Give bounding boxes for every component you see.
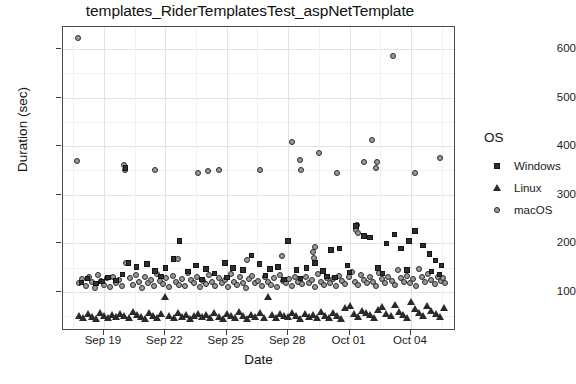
legend-item-macos[interactable]: macOS (488, 199, 576, 221)
triangle-marker-icon (488, 179, 506, 197)
data-point-windows (126, 260, 132, 266)
data-point-macos (390, 53, 396, 59)
data-point-linux (415, 309, 423, 316)
data-point-macos (244, 257, 250, 263)
data-point-windows (120, 272, 126, 278)
data-point-macos (74, 158, 80, 164)
data-point-linux (170, 314, 178, 321)
data-point-macos (346, 274, 352, 280)
legend-item-windows[interactable]: Windows (488, 155, 576, 177)
data-point-windows (105, 275, 111, 281)
data-point-macos (225, 284, 231, 290)
data-point-macos (231, 279, 237, 285)
data-point-macos (95, 272, 101, 278)
data-point-macos (289, 139, 295, 145)
gridline-x-minor (73, 27, 74, 329)
y-tick-mark (56, 97, 61, 98)
data-point-macos (200, 278, 206, 284)
x-tick-label: Sep 19 (68, 334, 138, 346)
data-point-linux (362, 309, 370, 316)
data-point-windows (158, 274, 164, 280)
data-point-macos (92, 285, 98, 291)
data-point-macos (79, 276, 85, 282)
data-point-linux (206, 314, 214, 321)
gridline-y-major (63, 195, 454, 196)
data-point-macos (364, 280, 370, 286)
data-point-macos (170, 273, 176, 279)
data-point-macos (197, 284, 203, 290)
data-point-macos (259, 283, 265, 289)
data-point-macos (342, 281, 348, 287)
gridline-x-major (165, 27, 166, 329)
data-point-macos (303, 274, 309, 280)
data-point-windows (249, 253, 255, 259)
data-point-macos (151, 283, 157, 289)
data-point-windows (427, 251, 433, 257)
data-point-linux (419, 312, 427, 319)
legend-label: macOS (514, 204, 552, 216)
data-point-macos (392, 282, 398, 288)
y-tick-mark (56, 145, 61, 146)
x-tick-label: Sep 28 (252, 334, 322, 346)
data-point-macos (353, 227, 359, 233)
data-point-macos (123, 260, 129, 266)
data-point-windows (79, 280, 85, 286)
data-point-windows (93, 281, 99, 287)
data-point-macos (369, 137, 375, 143)
data-point-linux (370, 314, 378, 321)
data-point-macos (157, 278, 163, 284)
data-point-macos (179, 276, 185, 282)
data-point-macos (255, 278, 261, 284)
data-point-windows (144, 261, 150, 267)
data-point-macos (279, 253, 285, 259)
data-point-macos (280, 278, 286, 284)
y-tick-mark (56, 48, 61, 49)
y-tick-label: 100 (530, 285, 576, 297)
gridline-x-major (227, 27, 228, 329)
data-point-macos (297, 157, 303, 163)
data-point-macos (306, 280, 312, 286)
data-point-macos (354, 222, 360, 228)
gridline-x-major (350, 27, 351, 329)
data-point-windows (433, 258, 439, 264)
x-tick-mark (287, 330, 288, 335)
data-point-macos (361, 159, 367, 165)
data-point-macos (413, 283, 419, 289)
data-point-windows (113, 278, 119, 284)
scatter-chart: templates_RiderTemplatesTest_aspNetTempl… (0, 0, 576, 384)
data-point-macos (127, 275, 133, 281)
data-point-linux (235, 308, 243, 315)
data-point-macos (194, 274, 200, 280)
chart-title: templates_RiderTemplatesTest_aspNetTempl… (0, 2, 500, 20)
data-point-windows (429, 269, 435, 275)
x-axis-title: Date (62, 352, 455, 367)
y-tick-label: 200 (530, 236, 576, 248)
data-point-linux (288, 309, 296, 316)
legend-item-linux[interactable]: Linux (488, 177, 576, 199)
data-point-linux (292, 312, 300, 319)
data-point-macos (148, 277, 154, 283)
gridline-x-minor (257, 27, 258, 329)
x-tick-mark (226, 330, 227, 335)
data-point-macos (432, 281, 438, 287)
data-point-macos (268, 282, 274, 288)
data-point-macos (89, 279, 95, 285)
square-marker-icon (488, 157, 506, 175)
data-point-macos (182, 283, 188, 289)
data-point-windows (312, 260, 318, 266)
data-point-macos (240, 280, 246, 286)
data-point-macos (246, 276, 252, 282)
data-point-macos (355, 282, 361, 288)
data-point-macos (352, 279, 358, 285)
data-point-macos (373, 283, 379, 289)
x-tick-mark (410, 330, 411, 335)
data-point-windows (85, 276, 91, 282)
data-point-windows (337, 246, 343, 252)
data-point-windows (185, 269, 191, 275)
data-point-macos (188, 277, 194, 283)
data-point-linux (145, 309, 153, 316)
gridline-x-major (104, 27, 105, 329)
data-point-linux (96, 309, 104, 316)
y-tick-label: 500 (530, 91, 576, 103)
data-point-macos (419, 274, 425, 280)
